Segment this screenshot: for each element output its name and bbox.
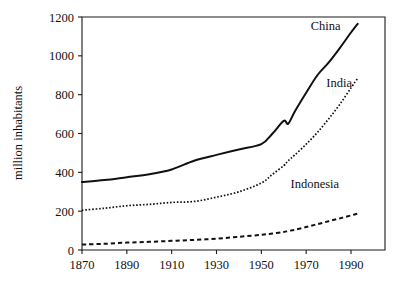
y-tick-label: 400 <box>55 166 74 180</box>
y-tick-label: 800 <box>55 88 74 102</box>
y-axis-title: million inhabitants <box>11 86 25 180</box>
y-tick-label: 200 <box>55 205 74 219</box>
x-tick-label: 1890 <box>114 258 139 272</box>
y-tick-label: 0 <box>68 244 74 258</box>
x-tick-label: 1990 <box>339 258 364 272</box>
x-tick-label: 1930 <box>204 258 229 272</box>
y-tick-label: 600 <box>55 127 74 141</box>
chart-canvas: 020040060080010001200 187018901910193019… <box>0 0 407 300</box>
x-tick-label: 1970 <box>294 258 319 272</box>
y-tick-label: 1000 <box>49 49 74 63</box>
series-label-indonesia: Indonesia <box>290 177 339 191</box>
chart-background <box>0 0 407 300</box>
x-tick-label: 1910 <box>159 258 184 272</box>
x-tick-label: 1870 <box>70 258 95 272</box>
population-line-chart-figure: 020040060080010001200 187018901910193019… <box>0 0 407 300</box>
series-label-china: China <box>311 19 341 33</box>
x-tick-label: 1950 <box>249 258 274 272</box>
y-tick-label: 1200 <box>49 11 74 25</box>
series-label-india: India <box>326 76 352 90</box>
